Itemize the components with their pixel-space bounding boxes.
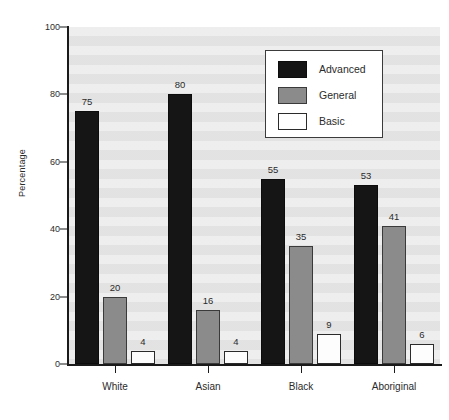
legend-entry-advanced: Advanced — [278, 59, 366, 79]
bar-black-basic — [317, 334, 341, 364]
x-tick-mark — [115, 366, 116, 373]
bar-asian-basic — [224, 351, 248, 364]
y-tick-label: 20 — [24, 292, 60, 302]
legend-label-general: General — [319, 89, 356, 101]
bar-value-label: 9 — [309, 319, 349, 330]
y-tick-mark — [60, 27, 67, 28]
bar-value-label: 35 — [281, 231, 321, 242]
y-tick-label: 60 — [24, 157, 60, 167]
legend-entry-basic: Basic — [278, 111, 345, 131]
y-tick-label: 80 — [24, 89, 60, 99]
x-tick-mark — [208, 366, 209, 373]
legend-label-advanced: Advanced — [319, 63, 366, 75]
legend-swatch-basic-icon — [278, 113, 307, 130]
y-tick-mark — [60, 94, 67, 95]
legend-label-basic: Basic — [319, 115, 345, 127]
y-axis-title: Percentage — [17, 118, 27, 228]
x-tick-mark — [394, 366, 395, 373]
y-tick-label: 100 — [24, 22, 60, 32]
legend-swatch-general-icon — [278, 87, 307, 104]
bar-black-advanced — [261, 179, 285, 364]
bar-aboriginal-basic — [410, 344, 434, 364]
bar-value-label: 4 — [216, 336, 256, 347]
x-axis-group-label: Aboriginal — [339, 381, 449, 392]
bar-asian-advanced — [168, 94, 192, 364]
y-tick-mark — [60, 296, 67, 297]
y-tick-mark — [60, 161, 67, 162]
bar-chart: Percentage 020406080100 7520480164553595… — [0, 0, 449, 420]
legend-swatch-advanced-icon — [278, 61, 307, 78]
x-tick-mark — [301, 366, 302, 373]
bar-value-label: 53 — [346, 170, 386, 181]
y-tick-mark — [60, 364, 67, 365]
legend-entry-general: General — [278, 85, 356, 105]
bar-black-general — [289, 246, 313, 364]
bar-value-label: 6 — [402, 329, 442, 340]
bar-value-label: 20 — [95, 282, 135, 293]
x-axis-line — [67, 364, 442, 366]
bar-value-label: 4 — [123, 336, 163, 347]
bar-value-label: 16 — [188, 295, 228, 306]
bar-white-basic — [131, 351, 155, 364]
bar-value-label: 55 — [253, 164, 293, 175]
bar-value-label: 75 — [67, 96, 107, 107]
y-tick-label: 40 — [24, 224, 60, 234]
bar-white-general — [103, 297, 127, 364]
bar-white-advanced — [75, 111, 99, 364]
y-axis-line — [67, 26, 69, 365]
bar-value-label: 80 — [160, 79, 200, 90]
legend: Advanced General Basic — [265, 50, 383, 138]
y-tick-mark — [60, 229, 67, 230]
bar-aboriginal-general — [382, 226, 406, 364]
y-tick-label: 0 — [24, 359, 60, 369]
bar-value-label: 41 — [374, 211, 414, 222]
